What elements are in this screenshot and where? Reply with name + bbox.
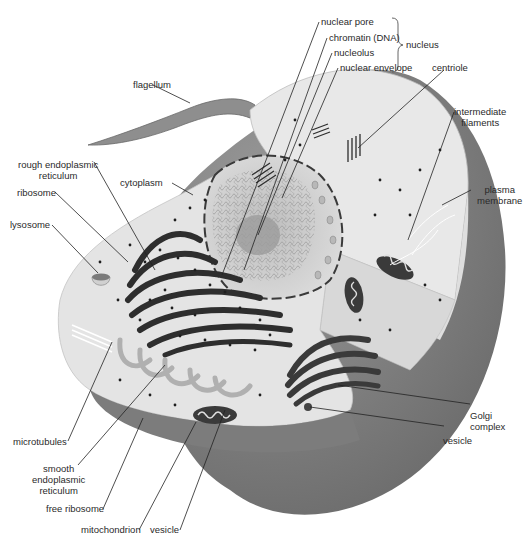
label-smooth-er-line3: reticulum [39,485,78,496]
label-golgi-line2: complex [470,421,505,432]
label-rough-er-line2: reticulum [39,170,78,181]
label-free-ribosome: free ribosome [46,503,104,514]
label-intermediate-filaments-line1: intermediate [454,106,506,117]
label-smooth-er-line1: smooth [43,463,74,474]
label-centriole: centriole [432,62,468,73]
label-flagellum: flagellum [133,79,171,90]
label-nucleus: nucleus [406,39,439,50]
label-smooth-er-line2: endoplasmic [32,474,85,485]
label-vesicle-bottom: vesicle [150,524,179,535]
label-chromatin: chromatin (DNA) [329,32,400,43]
lysosome-shape [92,274,110,286]
label-ribosome: ribosome [17,187,56,198]
label-rough-er: rough endoplasmic reticulum [18,159,98,181]
label-plasma-membrane-line1: plasma [484,184,515,195]
label-microtubules: microtubules [13,436,67,447]
label-nuclear-envelope: nuclear envelope [340,62,412,73]
label-intermediate-filaments-line2: filaments [461,117,499,128]
label-lysosome: lysosome [10,219,50,230]
label-golgi-complex: Golgi complex [470,410,505,432]
label-smooth-er: smooth endoplasmic reticulum [32,463,85,496]
label-nucleolus: nucleolus [334,47,374,58]
label-intermediate-filaments: intermediate filaments [454,106,506,128]
label-golgi-line1: Golgi [470,410,492,421]
label-plasma-membrane-line2: membrane [477,195,522,206]
label-vesicle-right: vesicle [443,435,472,446]
label-rough-er-line1: rough endoplasmic [18,159,98,170]
label-mitochondrion: mitochondrion [81,524,141,535]
label-plasma-membrane: plasma membrane [477,184,522,206]
flagellum-shape [88,99,255,145]
label-nuclear-pore: nuclear pore [321,16,374,27]
label-cytoplasm: cytoplasm [120,177,163,188]
